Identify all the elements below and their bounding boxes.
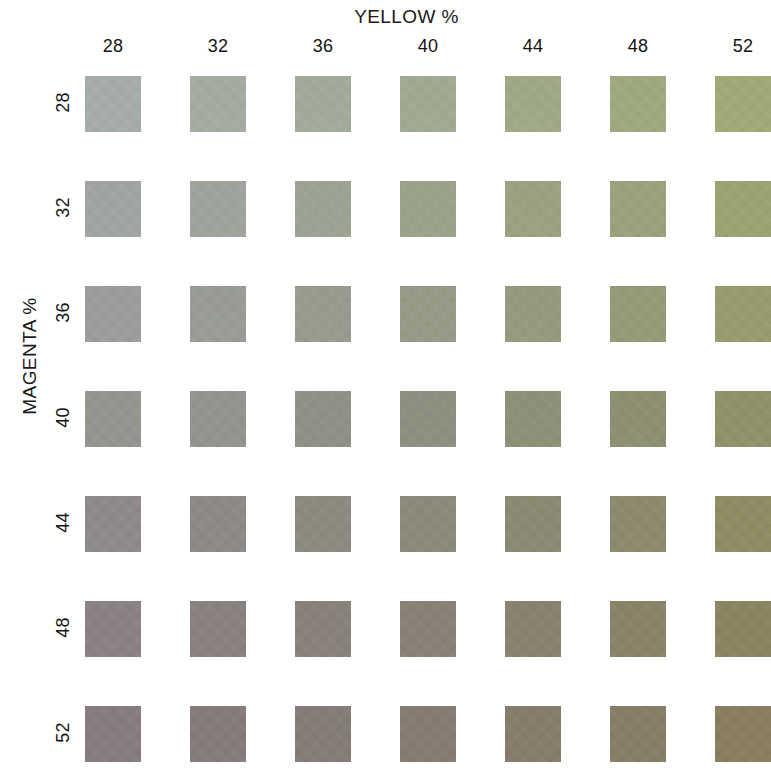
color-swatch-m52-y28 <box>85 706 141 762</box>
color-swatch-m28-y52 <box>715 76 771 132</box>
y-tick-label-44: 44 <box>53 500 74 546</box>
color-swatch-m40-y32 <box>190 391 246 447</box>
x-tick-label-52: 52 <box>715 36 771 57</box>
color-swatch-m44-y52 <box>715 496 771 552</box>
color-swatch-m28-y40 <box>400 76 456 132</box>
color-swatch-m28-y44 <box>505 76 561 132</box>
color-swatch-m44-y32 <box>190 496 246 552</box>
color-swatch-m32-y44 <box>505 181 561 237</box>
y-tick-label-28: 28 <box>53 80 74 126</box>
color-swatch-m48-y36 <box>295 601 351 657</box>
color-swatch-m36-y28 <box>85 286 141 342</box>
y-tick-label-52: 52 <box>53 710 74 756</box>
color-swatch-m32-y40 <box>400 181 456 237</box>
x-tick-label-44: 44 <box>505 36 561 57</box>
color-swatch-m40-y36 <box>295 391 351 447</box>
color-swatch-m52-y40 <box>400 706 456 762</box>
color-swatch-m32-y36 <box>295 181 351 237</box>
color-swatch-m28-y28 <box>85 76 141 132</box>
x-tick-label-40: 40 <box>400 36 456 57</box>
color-swatch-m40-y40 <box>400 391 456 447</box>
color-swatch-m36-y36 <box>295 286 351 342</box>
color-swatch-m36-y40 <box>400 286 456 342</box>
color-swatch-m52-y44 <box>505 706 561 762</box>
color-swatch-m48-y44 <box>505 601 561 657</box>
color-swatch-m48-y40 <box>400 601 456 657</box>
color-swatch-m44-y48 <box>610 496 666 552</box>
color-swatch-m44-y36 <box>295 496 351 552</box>
color-swatch-m52-y48 <box>610 706 666 762</box>
color-swatch-m44-y40 <box>400 496 456 552</box>
color-swatch-m52-y36 <box>295 706 351 762</box>
color-swatch-m32-y48 <box>610 181 666 237</box>
x-tick-label-28: 28 <box>85 36 141 57</box>
color-swatch-m32-y28 <box>85 181 141 237</box>
x-tick-label-36: 36 <box>295 36 351 57</box>
color-swatch-m36-y52 <box>715 286 771 342</box>
color-swatch-m48-y52 <box>715 601 771 657</box>
color-swatch-m52-y32 <box>190 706 246 762</box>
color-swatch-m48-y28 <box>85 601 141 657</box>
x-tick-label-32: 32 <box>190 36 246 57</box>
color-swatch-m40-y52 <box>715 391 771 447</box>
y-tick-label-36: 36 <box>53 290 74 336</box>
color-swatch-m40-y28 <box>85 391 141 447</box>
color-swatch-m48-y48 <box>610 601 666 657</box>
color-swatch-m36-y48 <box>610 286 666 342</box>
color-swatch-m36-y44 <box>505 286 561 342</box>
color-swatch-m28-y36 <box>295 76 351 132</box>
color-swatch-m40-y44 <box>505 391 561 447</box>
color-swatch-m28-y32 <box>190 76 246 132</box>
color-swatch-m44-y28 <box>85 496 141 552</box>
color-swatch-m32-y32 <box>190 181 246 237</box>
color-swatch-m28-y48 <box>610 76 666 132</box>
color-swatch-m44-y44 <box>505 496 561 552</box>
y-tick-label-48: 48 <box>53 605 74 651</box>
color-swatch-m40-y48 <box>610 391 666 447</box>
y-tick-label-40: 40 <box>53 395 74 441</box>
y-tick-label-32: 32 <box>53 185 74 231</box>
x-axis-title: YELLOW % <box>0 6 761 28</box>
color-swatch-m48-y32 <box>190 601 246 657</box>
color-swatch-m52-y52 <box>715 706 771 762</box>
x-tick-label-48: 48 <box>610 36 666 57</box>
y-axis-title: MAGENTA % <box>19 261 41 451</box>
color-swatch-m36-y32 <box>190 286 246 342</box>
color-swatch-m32-y52 <box>715 181 771 237</box>
